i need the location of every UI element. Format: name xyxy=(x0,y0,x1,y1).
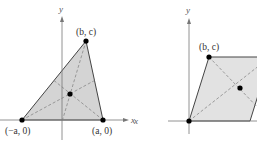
left-vertex-bc xyxy=(83,38,88,43)
left-vertex-neg-a xyxy=(19,117,24,122)
diagram-canvas: y x (−a, 0) (a, 0) (b, c) y x (b, c) xyxy=(0,0,257,142)
right-figure: y x (b, c) xyxy=(133,5,257,134)
right-y-arrow-icon xyxy=(187,18,191,24)
right-parallelogram xyxy=(189,57,257,121)
left-figure: y x (−a, 0) (a, 0) (b, c) xyxy=(0,4,135,140)
left-y-arrow-icon xyxy=(60,16,64,22)
right-label-bc: (b, c) xyxy=(199,42,219,53)
left-label-a: (a, 0) xyxy=(92,126,112,137)
right-origin-point xyxy=(186,118,191,123)
left-centroid xyxy=(67,91,72,96)
right-y-label: y xyxy=(185,5,190,15)
left-vertex-a xyxy=(100,117,105,122)
left-y-label: y xyxy=(58,4,63,14)
right-vertex-bc xyxy=(206,54,211,59)
right-center-point xyxy=(237,85,242,90)
right-x-label: x xyxy=(133,116,138,126)
left-label-bc: (b, c) xyxy=(76,27,96,38)
left-label-neg-a: (−a, 0) xyxy=(5,126,30,137)
left-x-arrow-icon xyxy=(123,118,129,122)
left-triangle xyxy=(22,41,103,120)
